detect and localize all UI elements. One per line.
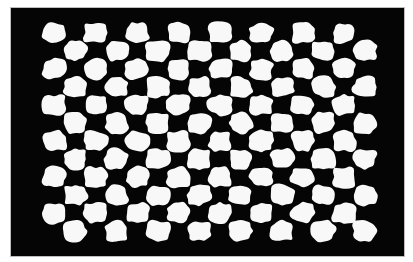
white-tile xyxy=(269,220,292,241)
white-tile xyxy=(311,112,335,134)
white-tile xyxy=(271,183,295,205)
white-tile xyxy=(271,77,295,97)
white-tile xyxy=(125,22,150,43)
white-tile xyxy=(208,202,232,224)
white-tile xyxy=(230,76,253,98)
white-tile xyxy=(290,96,314,115)
white-tile xyxy=(311,148,337,169)
white-tile xyxy=(333,130,357,152)
white-tile xyxy=(311,75,336,97)
white-tile xyxy=(146,148,171,168)
white-tile xyxy=(249,130,274,153)
white-tile xyxy=(126,166,150,188)
white-tile xyxy=(187,185,213,207)
white-tile xyxy=(270,148,296,168)
white-tile xyxy=(145,41,171,63)
white-tile xyxy=(124,95,149,115)
white-tile xyxy=(209,59,233,79)
white-tile xyxy=(104,77,128,96)
white-tile xyxy=(354,185,378,207)
white-tile xyxy=(271,113,294,132)
white-tile xyxy=(291,130,315,152)
white-tile xyxy=(353,39,378,60)
white-tile xyxy=(206,94,232,116)
white-tile xyxy=(208,132,232,152)
white-tile xyxy=(43,130,68,151)
white-tile xyxy=(333,24,354,44)
white-tile xyxy=(41,94,66,115)
white-tile xyxy=(332,58,356,78)
white-tile xyxy=(63,76,87,97)
white-tile xyxy=(187,40,212,61)
white-tile xyxy=(146,220,171,242)
white-tile xyxy=(249,23,274,43)
white-tile xyxy=(230,40,252,63)
white-tile xyxy=(292,22,315,44)
white-tile xyxy=(187,148,210,170)
white-tile xyxy=(84,58,107,81)
white-tile xyxy=(84,166,108,188)
white-tile xyxy=(293,58,315,79)
white-tile xyxy=(228,186,251,205)
white-tile xyxy=(332,167,355,189)
white-tile xyxy=(354,112,378,134)
white-tile xyxy=(166,130,191,153)
white-tile xyxy=(64,112,87,134)
white-tile xyxy=(312,185,335,205)
white-tile xyxy=(105,184,129,205)
white-tile xyxy=(64,41,88,61)
white-tile xyxy=(105,220,127,242)
white-tile xyxy=(188,113,213,134)
white-tile xyxy=(167,202,191,223)
white-tile xyxy=(168,59,189,80)
white-tile xyxy=(42,22,66,43)
white-tile xyxy=(83,202,107,223)
white-tile xyxy=(229,220,254,242)
white-tile xyxy=(83,23,108,43)
white-tile xyxy=(188,76,211,97)
white-tile xyxy=(124,131,150,152)
white-tile xyxy=(166,166,191,188)
white-tile xyxy=(187,222,211,241)
white-tile xyxy=(270,40,294,62)
white-tile xyxy=(289,168,314,187)
white-tile xyxy=(250,203,272,223)
white-tile xyxy=(208,21,233,42)
white-tile xyxy=(64,185,88,205)
white-tile xyxy=(63,220,88,242)
white-tile xyxy=(351,75,376,96)
white-tile xyxy=(166,94,191,115)
white-tile xyxy=(310,220,336,242)
white-tile xyxy=(208,166,232,187)
white-tile xyxy=(145,113,168,134)
white-tile xyxy=(105,112,129,134)
white-tile xyxy=(147,76,170,99)
white-tile xyxy=(106,41,129,62)
white-tile xyxy=(331,202,356,223)
white-tile xyxy=(311,42,334,61)
white-tile xyxy=(86,95,107,114)
white-tile xyxy=(146,186,171,206)
white-tile xyxy=(249,95,273,116)
white-tile xyxy=(249,59,274,81)
white-tile xyxy=(248,168,273,187)
white-tile xyxy=(168,22,191,43)
white-tile xyxy=(127,202,150,223)
white-tile xyxy=(64,148,86,170)
white-tile xyxy=(352,149,377,169)
white-tile xyxy=(42,203,65,224)
white-tile xyxy=(42,58,67,79)
white-tile xyxy=(42,165,67,187)
white-tile xyxy=(331,94,355,116)
white-tile xyxy=(289,202,315,223)
white-tile xyxy=(104,147,129,169)
checkerboard-pattern xyxy=(0,0,413,262)
white-tile xyxy=(230,150,252,170)
white-tile xyxy=(124,58,148,80)
white-tile xyxy=(84,130,109,151)
white-tile xyxy=(352,220,377,242)
white-tile xyxy=(229,112,254,135)
